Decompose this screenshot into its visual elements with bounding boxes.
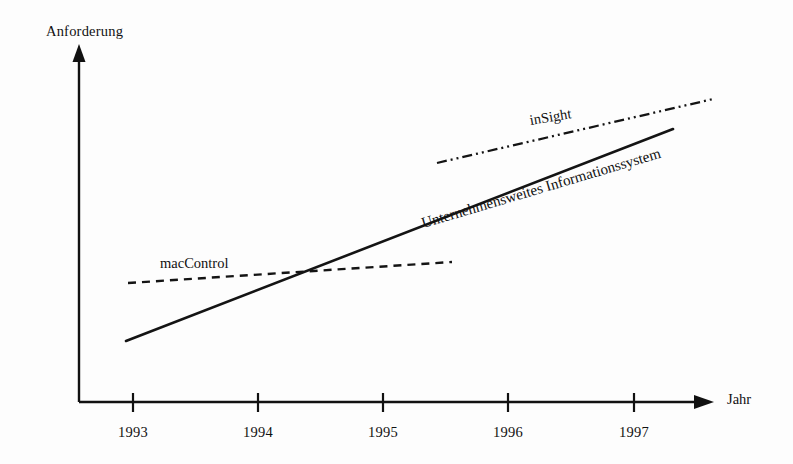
- x-tick-label-1996: 1996: [493, 424, 523, 441]
- x-axis-arrow-icon: [694, 395, 714, 409]
- series-label-maccontrol: macControl: [160, 256, 228, 271]
- y-axis-arrow-icon: [73, 44, 86, 62]
- y-axis-label: Anforderung: [46, 24, 123, 39]
- x-tick-label-1994: 1994: [243, 424, 273, 441]
- series-line-insight: [437, 99, 713, 163]
- chart-canvas: Anforderung Jahr 1993 1994 1995 1996 199…: [0, 0, 793, 464]
- chart-figure: [0, 0, 793, 464]
- series-line-unternehmensweites-informationssystem: [126, 129, 673, 341]
- x-tick-label-1997: 1997: [619, 424, 649, 441]
- x-tick-label-1995: 1995: [368, 424, 398, 441]
- x-tick-label-1993: 1993: [118, 424, 148, 441]
- x-axis-label: Jahr: [727, 392, 751, 407]
